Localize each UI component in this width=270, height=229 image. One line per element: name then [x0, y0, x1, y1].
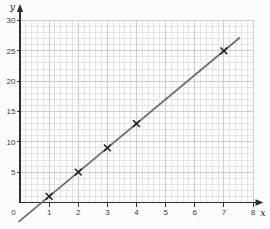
x-tick-label: 2 — [76, 208, 81, 217]
y-tick-label: 10 — [7, 138, 16, 147]
x-tick-label: 6 — [193, 208, 198, 217]
x-axis-label: x — [260, 207, 266, 218]
grid-layer — [20, 20, 253, 202]
y-tick-label: 15 — [7, 107, 16, 116]
y-axis-label: y — [9, 1, 16, 12]
line-graph: 1234567851015202530 y x 0 — [0, 0, 270, 229]
y-tick-label: 30 — [7, 16, 16, 25]
y-tick-label: 25 — [7, 47, 16, 56]
x-tick-label: 7 — [222, 208, 227, 217]
y-axis-arrowhead — [17, 4, 23, 12]
x-tick-label: 1 — [47, 208, 52, 217]
x-tick-label: 3 — [105, 208, 110, 217]
graph-page: 1234567851015202530 y x 0 — [0, 0, 270, 229]
y-tick-label: 5 — [11, 168, 16, 177]
x-tick-label: 4 — [134, 208, 139, 217]
x-tick-label: 8 — [251, 208, 256, 217]
x-axis-arrowhead — [256, 199, 264, 205]
x-tick-label: 5 — [163, 208, 168, 217]
y-tick-label: 20 — [7, 77, 16, 86]
origin-label: 0 — [11, 208, 16, 217]
